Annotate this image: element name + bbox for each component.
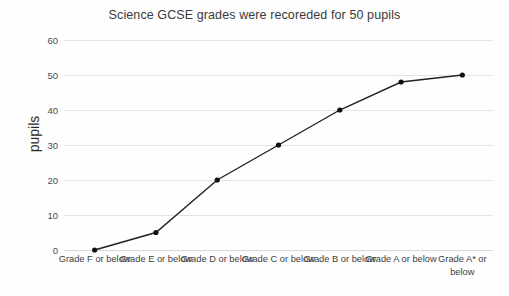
y-tick-label-50: 50 bbox=[12, 70, 58, 81]
line-series-svg bbox=[64, 40, 493, 250]
y-tick-label-30: 30 bbox=[12, 140, 58, 151]
data-point-6 bbox=[460, 72, 465, 77]
x-tick-label-6: Grade A* or below bbox=[425, 253, 499, 278]
data-point-0 bbox=[92, 247, 97, 252]
gridline-0 bbox=[64, 250, 493, 251]
data-point-5 bbox=[398, 79, 403, 84]
data-point-2 bbox=[215, 177, 220, 182]
series-line-pupils bbox=[95, 75, 463, 250]
data-point-4 bbox=[337, 107, 342, 112]
y-tick-label-20: 20 bbox=[12, 175, 58, 186]
x-axis-tick-labels: Grade F or belowGrade E or belowGrade D … bbox=[64, 253, 493, 293]
y-tick-label-40: 40 bbox=[12, 105, 58, 116]
data-point-1 bbox=[153, 230, 158, 235]
y-axis-tick-labels: 0102030405060 bbox=[12, 40, 58, 250]
plot-area bbox=[64, 40, 493, 250]
y-tick-label-0: 0 bbox=[12, 245, 58, 256]
data-point-3 bbox=[276, 142, 281, 147]
y-tick-label-60: 60 bbox=[12, 35, 58, 46]
y-tick-label-10: 10 bbox=[12, 210, 58, 221]
chart-title: Science GCSE grades were recoreded for 5… bbox=[0, 8, 509, 22]
series-markers-pupils bbox=[92, 72, 465, 252]
chart-screenshot: Science GCSE grades were recoreded for 5… bbox=[0, 0, 509, 296]
